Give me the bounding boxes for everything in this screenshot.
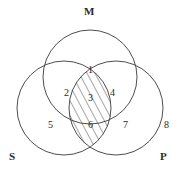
region-label-7: 7 [123, 120, 128, 130]
region-label-3: 3 [88, 93, 93, 103]
region-label-5: 5 [48, 120, 53, 130]
region-label-1: 1 [88, 65, 93, 75]
region-label-4: 4 [110, 88, 115, 98]
region-label-6: 6 [88, 120, 93, 130]
region-label-2: 2 [64, 88, 69, 98]
venn-diagram-canvas [0, 0, 185, 175]
set-label-s: S [9, 151, 15, 162]
set-label-p: P [160, 151, 167, 162]
region-label-8: 8 [164, 120, 169, 130]
set-label-m: M [84, 6, 94, 17]
venn-diagram-figure: M S P 1 2 3 4 5 6 7 8 [0, 0, 185, 175]
